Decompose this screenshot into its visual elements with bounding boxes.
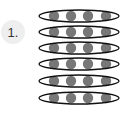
dot — [83, 59, 93, 69]
dot — [83, 27, 93, 37]
dot — [83, 93, 93, 103]
dot-group-row — [39, 42, 119, 54]
dot — [83, 11, 93, 21]
dot-group-row — [39, 75, 119, 87]
dot-group-row — [39, 92, 119, 104]
dot — [66, 43, 76, 53]
grouped-dots-diagram — [0, 0, 124, 113]
dot-group-row — [39, 58, 119, 70]
dot-group-row — [39, 10, 119, 22]
dot — [66, 93, 76, 103]
dot — [66, 59, 76, 69]
dot — [66, 27, 76, 37]
dot — [66, 76, 76, 86]
dot — [83, 43, 93, 53]
dot-group-row — [39, 26, 119, 38]
dot — [83, 76, 93, 86]
dot — [66, 11, 76, 21]
